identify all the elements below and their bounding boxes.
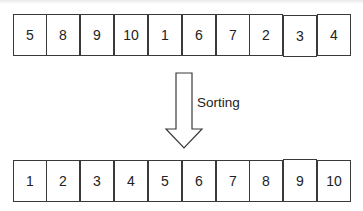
sorting-label: Sorting [197,95,240,110]
array-cell: 5 [148,160,182,202]
array-cell: 2 [46,160,80,202]
array-cell: 8 [249,160,283,202]
array-cell: 4 [317,14,351,56]
array-cell: 3 [283,15,317,57]
array-cell: 2 [249,14,283,56]
array-cell: 3 [80,160,114,202]
array-cell: 10 [317,160,351,202]
unsorted-array: 5 8 9 10 1 6 7 2 3 4 [13,14,351,56]
array-cell: 6 [182,14,216,56]
top-edge-shadow [0,0,363,4]
array-cell: 8 [46,14,80,56]
array-cell: 7 [216,160,250,202]
array-cell: 7 [216,14,250,56]
down-arrow-icon [160,70,210,152]
array-cell: 10 [114,14,148,56]
array-cell: 1 [13,160,47,202]
array-cell: 4 [114,160,148,202]
array-cell: 6 [182,160,216,202]
sorted-array: 1 2 3 4 5 6 7 8 9 10 [13,160,351,202]
array-cell: 9 [283,159,317,202]
array-cell: 1 [148,14,182,56]
array-cell: 9 [80,14,114,56]
array-cell: 5 [13,14,47,56]
